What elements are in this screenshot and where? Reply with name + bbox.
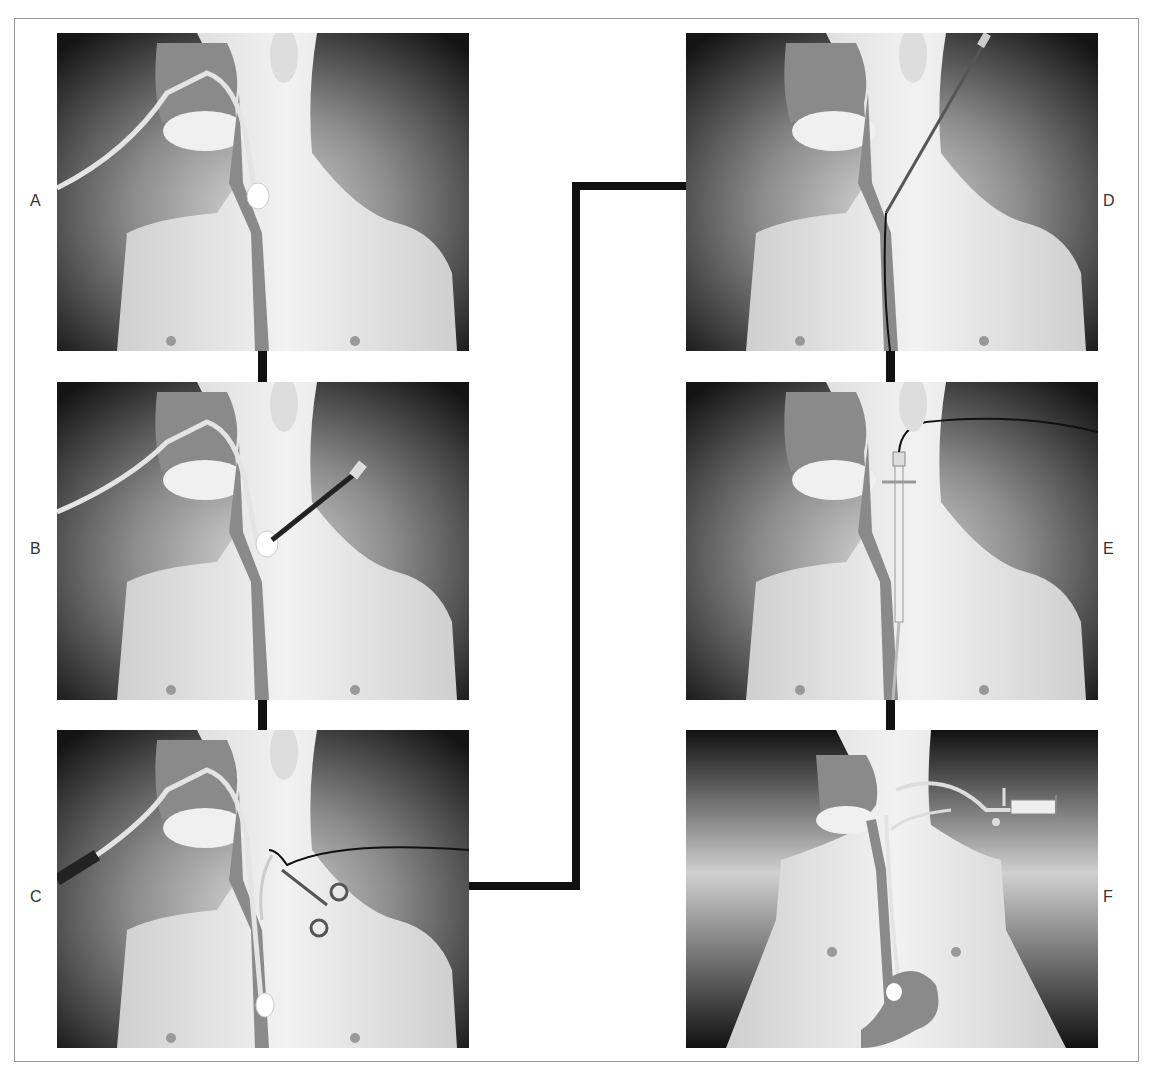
panel-label-b: B: [30, 540, 41, 558]
connector-d-e: [886, 351, 895, 382]
panel-a: [57, 33, 469, 351]
panel-label-e: E: [1103, 540, 1114, 558]
panel-f: [686, 730, 1098, 1048]
panel-label-a: A: [30, 192, 41, 210]
connector-b-c: [258, 700, 267, 730]
connector-c-d-bottom: [469, 882, 579, 890]
panel-c: [57, 730, 469, 1048]
connector-a-b: [258, 351, 267, 382]
panel-e: [686, 382, 1098, 700]
panel-d: [686, 33, 1098, 351]
panel-b: [57, 382, 469, 700]
panel-label-d: D: [1103, 192, 1115, 210]
connector-e-f: [886, 700, 895, 730]
connector-c-d-top: [572, 182, 686, 190]
panel-label-f: F: [1103, 888, 1113, 906]
panel-label-c: C: [30, 888, 42, 906]
connector-c-d-vertical: [572, 182, 580, 890]
